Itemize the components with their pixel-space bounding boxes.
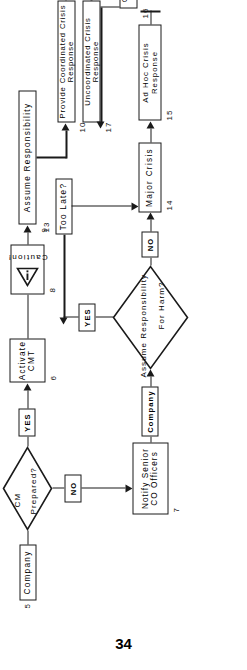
node-16-index: 16 [141,8,150,19]
edge-decision1-no-line-b [82,487,126,489]
decision1-line1: CM [13,493,22,508]
node-7-index: 7 [172,507,181,512]
node-10-provide-coordinated-crisis-response[interactable]: Provide Coordinated Crisis Response [57,1,75,123]
node-14-major-crisis[interactable]: Major Crisis [139,143,162,213]
edge-9-to-10-horizontal [66,131,68,159]
edge-yes2-to-13 [64,235,66,319]
edge-13-down [72,205,132,207]
node-15-index: 15 [165,110,174,121]
node-16-chain-reaction-of-further-crises[interactable]: Chain Reaction of Further Crises? [120,0,138,9]
decision2-line2: For Harm? [157,281,166,329]
flowchart-canvas: Company 5 CM Prepared? YES Activate CMT … [8,0,240,609]
edge-17-to-merge [91,0,93,1]
node-10-index: 10 [78,122,87,133]
node-6-label-line2: CMT [28,348,37,374]
node-17-label: Uncoordinated Crisis Response [84,2,100,122]
edge-5-to-decision1 [27,531,29,545]
edge-label-no-2[interactable]: NO [142,232,159,258]
node-13-too-late[interactable]: Too Late? [55,179,72,235]
node-9-label: Assume Responsibility [23,101,32,215]
edge-decision2-yes-line-a [96,316,114,318]
arrowhead-no2-to-14 [146,213,154,220]
edge-label-yes-1-text: YES [23,411,31,434]
node-13-label: Too Late? [59,181,68,233]
edge-label-no-1-text: NO [69,480,77,498]
edge-label-yes-1[interactable]: YES [19,409,36,437]
node-9-assume-responsibility[interactable]: Assume Responsibility [19,91,37,225]
decision1-line2: Prepared? [29,467,38,514]
diamond-shape [3,447,53,531]
edge-label-yes-2-text: YES [83,306,91,329]
node-17-index: 17 [104,122,113,133]
node-10-label: Provide Coordinated Crisis Response [58,2,74,122]
edge-decision1-yes-line-b [27,391,29,409]
node-5-label: Company [24,548,33,596]
edge-14-to-15 [150,129,152,143]
node-5-index: 5 [23,603,32,608]
edge-label-company[interactable]: Company [142,387,159,437]
edge-label-no-1[interactable]: NO [65,475,82,503]
page-number: 34 [0,635,247,652]
node-13-index: 13 [42,222,51,233]
arrowhead-to-node-17 [97,122,105,129]
arrowhead-to-node-6 [23,384,31,391]
edge-label-no-2-text: NO [146,236,154,254]
edge-decision2-no-line-a [150,258,152,266]
edge-7-to-decision2-line-b [150,377,152,387]
node-15-ad-hoc-crisis-response[interactable]: Ad Hoc Crisis Response [139,25,162,121]
edge-label-company-text: Company [146,388,154,435]
arrowhead-to-node-10 [62,124,70,131]
edge-16-to-17-vertical [101,6,120,8]
node-15-label: Ad Hoc Crisis Response [142,26,158,120]
edge-6-to-8 [27,295,29,339]
node-6-activate-cmt[interactable]: Activate CMT [10,339,46,383]
arrowhead-to-node-14 [132,203,139,211]
node-8-caution[interactable]: Caution! [11,245,45,295]
node-7-notify-senior-co-officers[interactable]: Notify Senior CO Officers [133,443,169,515]
node-16-label: Chain Reaction of Further Crises? [121,0,137,8]
decision2-line1: Assume Responsibility [139,274,148,378]
edge-7-to-decision2-line-a [150,437,152,443]
edge-15-to-16 [150,11,152,25]
scanned-page: Company 5 CM Prepared? YES Activate CMT … [0,0,247,670]
edge-decision2-no-line-b [150,220,152,232]
node-5-company[interactable]: Company [20,545,37,601]
diamond-shape-2 [113,266,189,370]
node-7-label-line2: CO Officers [151,449,160,508]
edge-decision1-no-line-a [53,487,65,489]
edge-16-to-17-horizontal [101,8,103,123]
arrowhead-to-node-9 [23,226,31,233]
arrowhead-to-node-15 [146,122,154,129]
node-14-index: 14 [165,200,174,211]
node-14-label: Major Crisis [146,146,155,209]
node-17-uncoordinated-crisis-response[interactable]: Uncoordinated Crisis Response [83,1,101,123]
node-6-index: 6 [49,375,58,380]
edge-decision1-yes-line-a [27,437,29,447]
caution-triangle-icon [16,265,40,289]
decision-assume-responsibility-for-harm[interactable]: Assume Responsibility For Harm? [113,266,189,370]
edge-label-yes-2[interactable]: YES [79,304,96,332]
node-8-label: Caution! [7,250,47,262]
arrowhead-yes2-left [60,318,68,325]
decision-cm-prepared[interactable]: CM Prepared? [3,447,53,531]
arrowhead-to-node-7 [126,485,133,493]
node-8-index: 8 [48,287,57,292]
edge-8-to-9 [27,233,29,245]
edge-9-to-10-vertical [37,157,67,159]
edge-10-to-11 [65,0,67,1]
